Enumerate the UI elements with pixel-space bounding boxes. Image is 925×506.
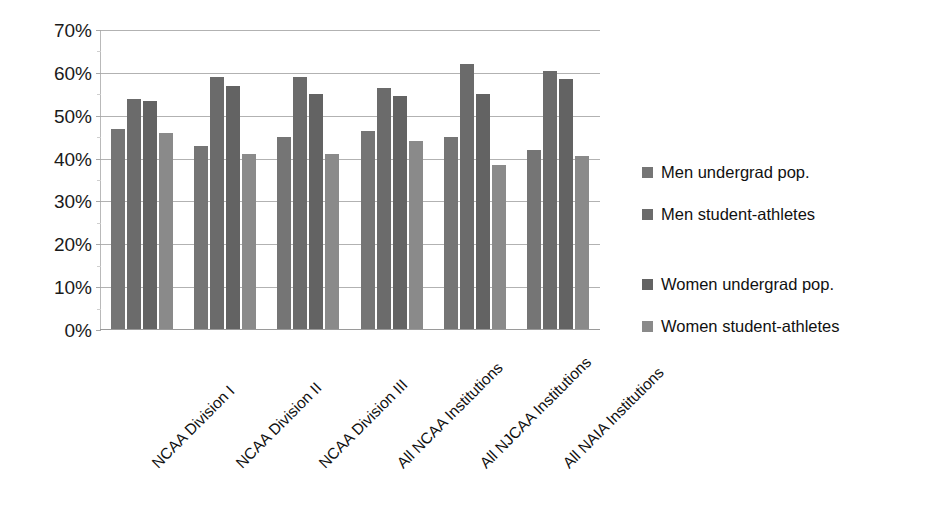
y-axis: 0%10%20%30%40%50%60%70% (30, 14, 92, 346)
y-tick-mark (96, 330, 101, 331)
legend-item[interactable]: Women undergrad pop. (642, 276, 834, 293)
x-axis-line (100, 329, 600, 330)
legend-item[interactable]: Men undergrad pop. (642, 164, 810, 181)
y-tick-label: 70% (30, 21, 92, 40)
y-tick-label: 0% (30, 321, 92, 340)
y-tick-label: 40% (30, 150, 92, 169)
bar (159, 133, 173, 330)
y-tick-label: 10% (30, 278, 92, 297)
bar (377, 88, 391, 330)
y-tick-label: 60% (30, 64, 92, 83)
bar (393, 96, 407, 330)
bar (559, 79, 573, 330)
bar (527, 150, 541, 330)
bar (210, 77, 224, 330)
bar (277, 137, 291, 330)
bar (293, 77, 307, 330)
legend-swatch-icon (642, 209, 653, 220)
legend-item[interactable]: Men student-athletes (642, 206, 815, 223)
bar (143, 101, 157, 330)
legend-label: Women student-athletes (661, 318, 840, 335)
bar (242, 154, 256, 330)
legend-item[interactable]: Women student-athletes (642, 318, 840, 335)
x-axis-label: NCAA Division I (149, 383, 237, 471)
bar (111, 129, 125, 330)
bar (476, 94, 490, 330)
x-axis-label: NCAA Division II (233, 380, 324, 471)
legend-swatch-icon (642, 167, 653, 178)
bar (409, 141, 423, 330)
bars-layer (100, 30, 600, 330)
bar (444, 137, 458, 330)
bar (226, 86, 240, 330)
bar (543, 71, 557, 330)
bar (309, 94, 323, 330)
y-tick-label: 50% (30, 107, 92, 126)
bar (194, 146, 208, 330)
y-tick-label: 30% (30, 192, 92, 211)
legend-label: Men student-athletes (661, 206, 815, 223)
bar-chart: 0%10%20%30%40%50%60%70% NCAA Division IN… (0, 0, 925, 506)
legend-swatch-icon (642, 321, 653, 332)
bar (460, 64, 474, 330)
bar (361, 131, 375, 330)
legend-swatch-icon (642, 279, 653, 290)
legend-label: Women undergrad pop. (661, 276, 834, 293)
plot-area (100, 30, 600, 330)
legend-label: Men undergrad pop. (661, 164, 810, 181)
bar (127, 99, 141, 330)
bar (575, 156, 589, 330)
bar (325, 154, 339, 330)
bar (492, 165, 506, 330)
y-tick-label: 20% (30, 235, 92, 254)
